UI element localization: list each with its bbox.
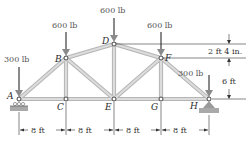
dimension-span-1: 8 ft xyxy=(31,126,46,135)
load-label-H: 300 lb xyxy=(178,69,204,78)
load-arrow-B xyxy=(62,32,70,56)
dimension-upper-height: 2 ft 4 in. xyxy=(208,47,242,56)
node-label-E: E xyxy=(104,102,112,112)
load-label-D: 600 lb xyxy=(100,6,126,15)
joint-E xyxy=(112,97,116,101)
dimension-span-3: 8 ft xyxy=(126,126,141,135)
vertical-dimensions xyxy=(116,34,246,99)
joint-G xyxy=(159,97,163,101)
truss-diagram: 300 lb 600 lb 600 lb 600 lb 300 lb A B C… xyxy=(0,0,251,148)
dimension-span-2: 8 ft xyxy=(78,126,93,135)
joint-F xyxy=(159,56,163,60)
joint-A xyxy=(17,97,21,101)
load-label-F: 600 lb xyxy=(147,21,173,30)
joint-H xyxy=(207,97,211,101)
node-label-H: H xyxy=(189,101,198,111)
load-label-A: 300 lb xyxy=(4,55,30,64)
node-label-B: B xyxy=(54,54,62,64)
load-arrow-H xyxy=(205,75,213,97)
dimension-lower-height: 6 ft xyxy=(222,77,237,86)
load-arrow-D xyxy=(110,18,118,42)
support-H-pin xyxy=(199,101,219,113)
dimension-span-4: 8 ft xyxy=(173,126,188,135)
node-label-A: A xyxy=(6,91,14,101)
joint-B xyxy=(64,56,68,60)
node-label-G: G xyxy=(151,102,158,112)
joint-C xyxy=(64,97,68,101)
load-label-B: 600 lb xyxy=(52,21,78,30)
node-label-C: C xyxy=(57,102,64,112)
load-arrow-A xyxy=(15,67,23,97)
joint-D xyxy=(112,42,116,46)
support-A-roller xyxy=(10,102,28,111)
node-label-D: D xyxy=(101,36,109,46)
